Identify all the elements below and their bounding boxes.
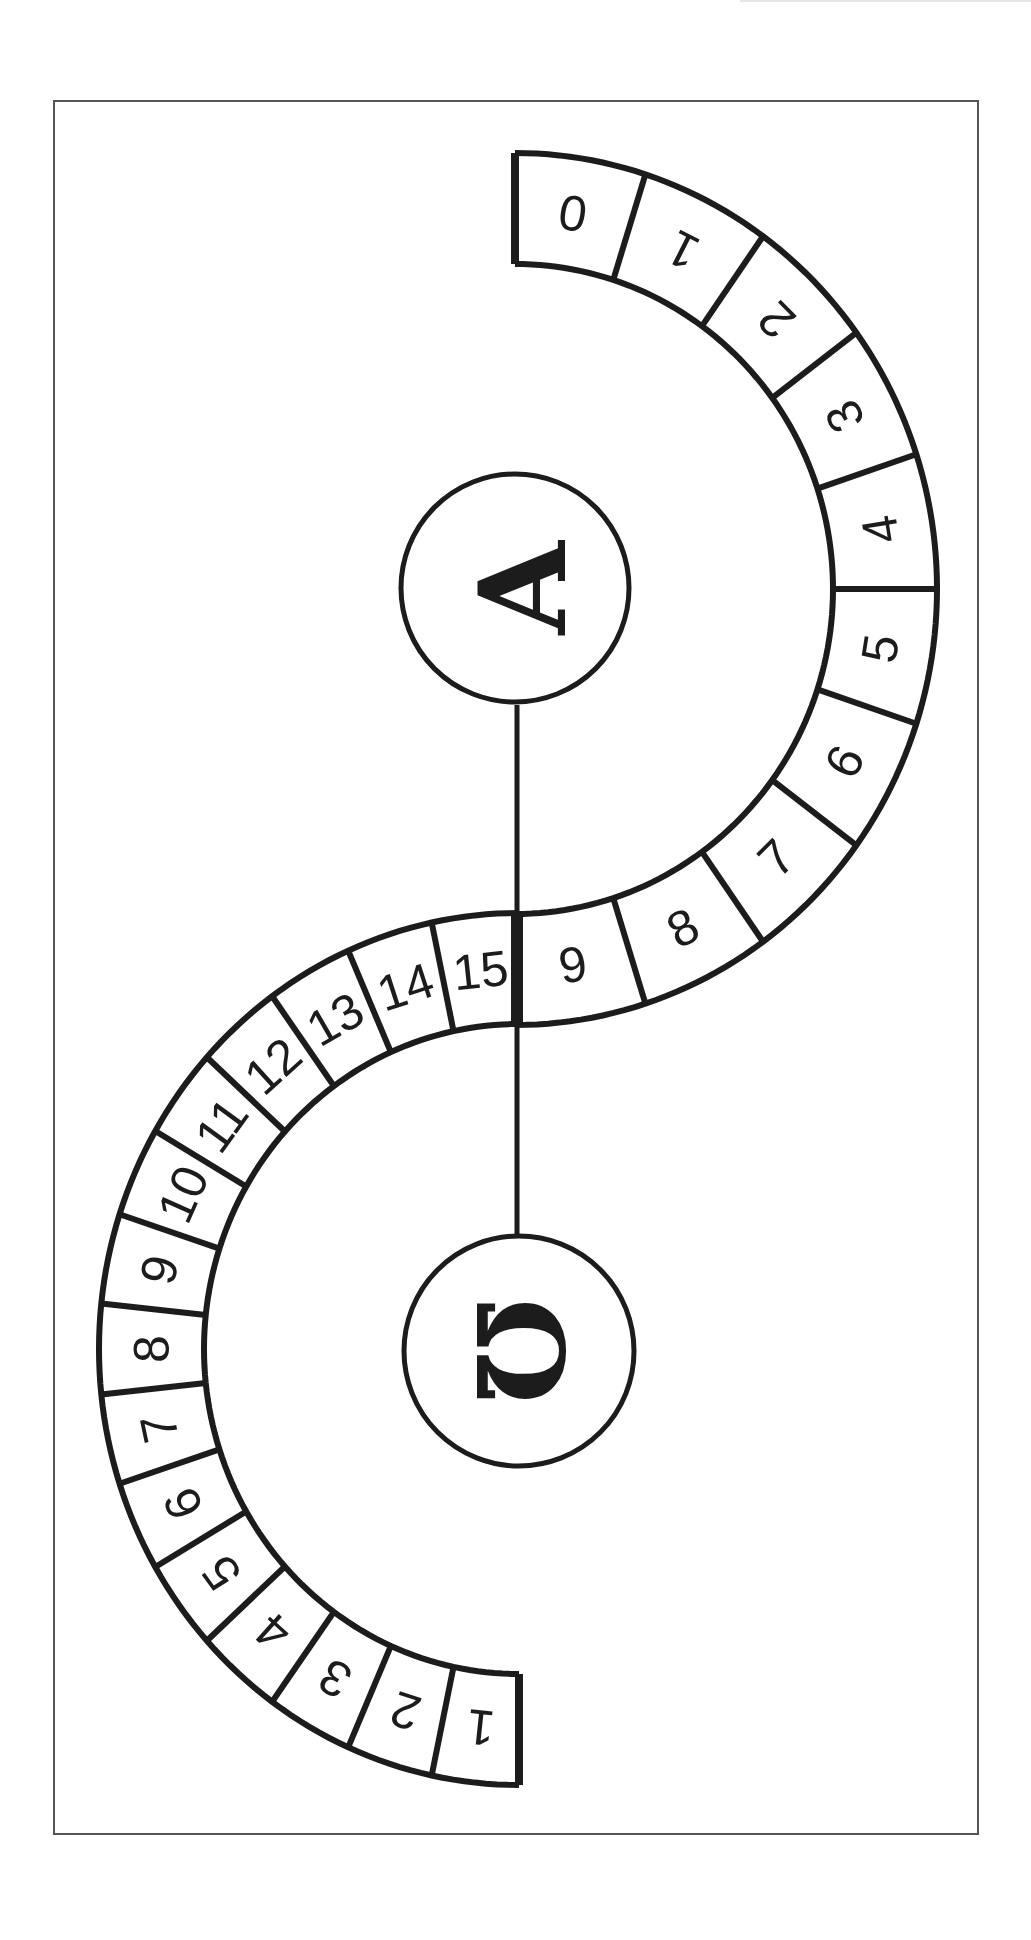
upper-track-cell-label: 4 bbox=[851, 511, 911, 547]
lower-track-cell-label: 15 bbox=[450, 940, 511, 1002]
lower-track-cell-divider bbox=[432, 1667, 454, 1776]
upper-track-cell-label: 6 bbox=[813, 737, 876, 787]
upper-track-cell-divider bbox=[702, 236, 763, 326]
upper-track-cell-divider bbox=[772, 780, 856, 845]
upper-track-cell-label: 0 bbox=[555, 183, 591, 243]
lower-track-cell-label: 10 bbox=[146, 1157, 220, 1231]
lower-track-cell-divider bbox=[101, 1303, 205, 1315]
alpha-symbol: A bbox=[452, 540, 593, 636]
upper-track-cell-label: 7 bbox=[747, 828, 806, 887]
upper-track-cell-label: 2 bbox=[747, 290, 806, 349]
upper-track-cell-label: 3 bbox=[813, 391, 876, 441]
upper-track-cell-divider bbox=[817, 454, 916, 488]
lower-track-cell-label: 5 bbox=[191, 1545, 253, 1600]
upper-track-cell-divider bbox=[817, 689, 916, 723]
lower-track-cell-label: 9 bbox=[129, 1250, 190, 1289]
lower-track-cell-divider bbox=[432, 923, 454, 1032]
lower-track-cell-label: 2 bbox=[384, 1680, 428, 1742]
lower-track-cell-label: 14 bbox=[370, 952, 440, 1022]
alpha-node: A bbox=[401, 474, 629, 702]
lower-track-cell-label: 1 bbox=[464, 1698, 498, 1757]
upper-track-cell-label: 1 bbox=[658, 219, 708, 282]
lower-track-cell-divider bbox=[101, 1383, 205, 1395]
upper-track-cell-label: 5 bbox=[851, 630, 911, 666]
lower-track-cell-label: 8 bbox=[124, 1335, 180, 1363]
lower-track-cell-label: 3 bbox=[309, 1647, 361, 1709]
lower-track-cell-label: 4 bbox=[244, 1602, 302, 1662]
lower-track-cell-divider bbox=[120, 1449, 220, 1483]
omega-symbol: Ω bbox=[449, 1298, 590, 1405]
upper-track-cell-label: 9 bbox=[555, 935, 591, 995]
lower-track-cell-label: 6 bbox=[152, 1480, 214, 1528]
s-track-diagram: 0123456789 151413121110987654321 A Ω bbox=[0, 0, 1031, 1940]
upper-track-cell-divider bbox=[702, 852, 763, 942]
upper-track-cell-divider bbox=[613, 898, 645, 1004]
lower-track-cell-label: 7 bbox=[129, 1409, 190, 1448]
omega-node: Ω bbox=[404, 1236, 634, 1466]
upper-track-cell-label: 8 bbox=[658, 897, 708, 960]
upper-track-cell-divider bbox=[613, 174, 645, 280]
upper-track-cell-divider bbox=[772, 333, 856, 398]
